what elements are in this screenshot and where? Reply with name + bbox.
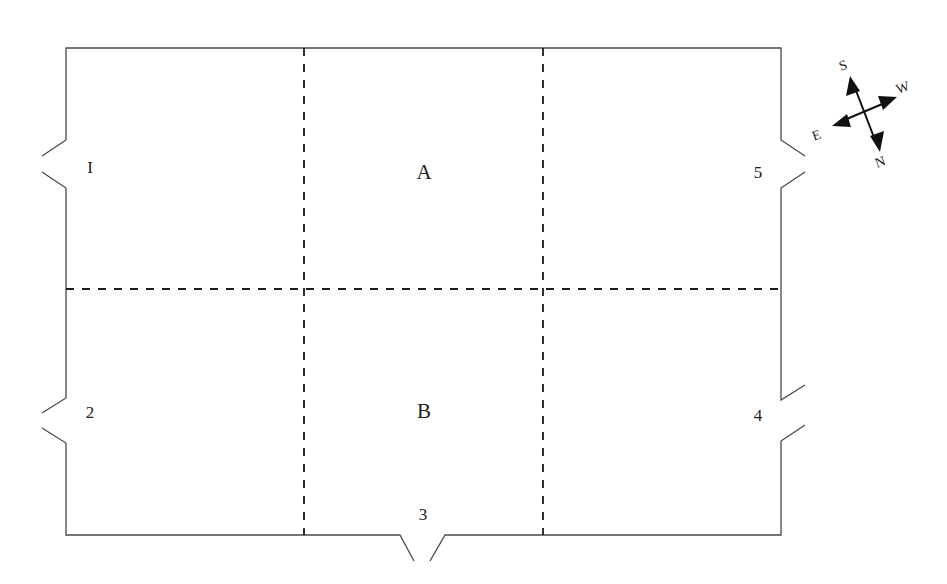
zone-a-label: A <box>416 160 432 184</box>
door-1-label: I <box>87 158 93 177</box>
door-5-label: 5 <box>754 163 763 182</box>
compass-south-label: S <box>837 57 849 74</box>
compass-east-label: E <box>810 127 823 144</box>
outer-wall <box>42 48 805 561</box>
door-2-label: 2 <box>86 403 95 422</box>
floor-plan-diagram: A B I 2 3 4 5 S W E N <box>0 0 947 584</box>
zone-b-label: B <box>417 399 431 423</box>
compass-west-label: W <box>894 78 912 97</box>
door-3-label: 3 <box>419 505 428 524</box>
compass-icon: S W E N <box>810 57 912 171</box>
compass-north-label: N <box>873 153 888 171</box>
door-4-label: 4 <box>754 406 763 425</box>
